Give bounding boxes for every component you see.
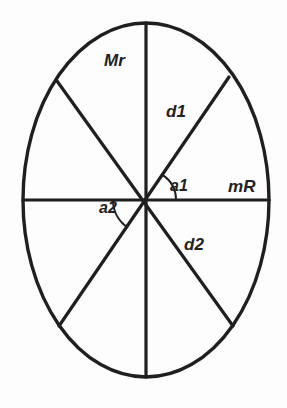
label-diagonal-d1: d1 — [166, 103, 186, 120]
label-angle-a2: a2 — [99, 200, 117, 216]
label-diagonal-d2: d2 — [184, 236, 204, 253]
ellipse-sector-figure — [0, 0, 287, 408]
label-angle-a1: a1 — [170, 178, 188, 194]
diagram-canvas: Mr d1 mR a1 a2 d2 — [0, 0, 287, 408]
label-major-radius: Mr — [104, 52, 125, 69]
label-minor-radius: mR — [228, 178, 256, 195]
